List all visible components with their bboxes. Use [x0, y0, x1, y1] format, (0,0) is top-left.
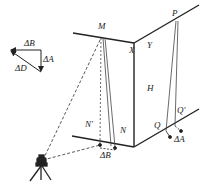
label-delta-d-triangle: ΔD [15, 64, 27, 73]
label-p: P [172, 9, 178, 18]
label-n: N [120, 126, 126, 135]
right-wall-top-edge [134, 5, 199, 43]
label-y: Y [147, 41, 152, 50]
theodolite-icon [30, 155, 51, 181]
label-delta-b-bottom: ΔB [100, 151, 111, 160]
label-delta-a-triangle: ΔA [43, 55, 54, 64]
label-q-prime: Q' [177, 106, 185, 115]
label-n-prime: N' [85, 120, 93, 129]
label-delta-a-bottom: ΔA [174, 135, 185, 144]
left-wall-bottom-edge [72, 136, 134, 147]
m-projection [100, 38, 115, 147]
label-m: M [98, 22, 106, 31]
label-x: X [129, 46, 135, 55]
label-delta-b-triangle: ΔB [24, 39, 35, 48]
label-h: H [147, 84, 154, 93]
label-q: Q [154, 121, 161, 130]
diagram-canvas: ΔB ΔA ΔD M X Y P H N' N ΔB Q Q' ΔA [0, 0, 201, 196]
